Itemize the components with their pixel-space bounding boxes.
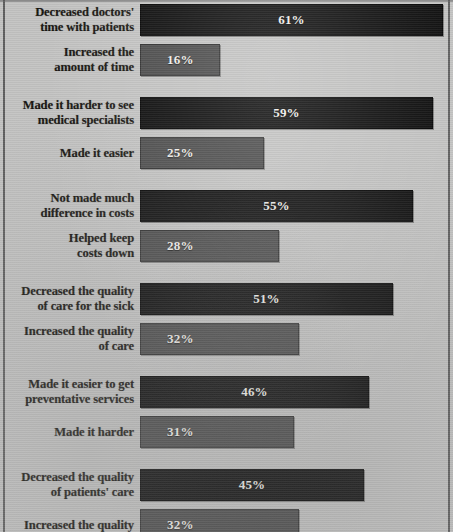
group-separator [0, 84, 453, 97]
chart-frame-right-border [448, 0, 450, 532]
bar-row: Increased the amount of time16% [0, 44, 453, 76]
bar-primary: 61% [140, 4, 443, 36]
bar-group: Decreased doctors' time with patients61%… [0, 4, 453, 76]
bar-primary: 59% [140, 97, 433, 129]
bar-category-label: Made it harder to see medical specialist… [0, 98, 134, 128]
bar-group: Decreased the quality of patients' care4… [0, 469, 453, 532]
bar-primary: 46% [140, 376, 369, 408]
paired-bar-chart: Decreased doctors' time with patients61%… [0, 0, 453, 532]
bar-row: Made it easier to get preventative servi… [0, 376, 453, 408]
bar-value-label: 31% [167, 424, 194, 440]
bar-group-list: Decreased doctors' time with patients61%… [0, 0, 453, 532]
bar-category-label: Made it easier [0, 146, 134, 161]
bar-row: Helped keep costs down28% [0, 230, 453, 262]
bar-row: Made it harder31% [0, 416, 453, 448]
bar-category-label: Not made much difference in costs [0, 191, 134, 221]
bar-row: Decreased doctors' time with patients61% [0, 4, 453, 36]
bar-category-label: Increased the quality [0, 518, 134, 532]
bar-row: Made it harder to see medical specialist… [0, 97, 453, 129]
bar-category-label: Increased the quality of care [0, 324, 134, 354]
group-separator [0, 270, 453, 283]
bar-value-label: 25% [167, 145, 194, 161]
bar-category-label: Decreased the quality of care for the si… [0, 284, 134, 314]
bar-row: Decreased the quality of patients' care4… [0, 469, 453, 501]
bar-value-label: 32% [167, 331, 194, 347]
bar-secondary: 16% [140, 44, 220, 76]
bar-category-label: Made it easier to get preventative servi… [0, 377, 134, 407]
bar-secondary: 32% [140, 509, 299, 532]
bar-group: Made it harder to see medical specialist… [0, 97, 453, 169]
chart-frame-top-border [0, 0, 453, 2]
group-separator [0, 363, 453, 376]
group-separator [0, 456, 453, 469]
bar-value-label: 61% [141, 12, 442, 28]
bar-value-label: 59% [141, 105, 432, 121]
bar-group: Not made much difference in costs55%Help… [0, 190, 453, 262]
bar-category-label: Increased the amount of time [0, 45, 134, 75]
bar-row: Not made much difference in costs55% [0, 190, 453, 222]
bar-primary: 45% [140, 469, 364, 501]
bar-row: Made it easier25% [0, 137, 453, 169]
bar-secondary: 32% [140, 323, 299, 355]
bar-category-label: Helped keep costs down [0, 231, 134, 261]
bar-primary: 55% [140, 190, 413, 222]
bar-category-label: Made it harder [0, 425, 134, 440]
bar-category-label: Decreased the quality of patients' care [0, 470, 134, 500]
bar-secondary: 25% [140, 137, 264, 169]
group-separator [0, 177, 453, 190]
bar-primary: 51% [140, 283, 393, 315]
bar-secondary: 31% [140, 416, 294, 448]
bar-row: Increased the quality32% [0, 509, 453, 532]
bar-group: Made it easier to get preventative servi… [0, 376, 453, 448]
bar-value-label: 28% [167, 238, 194, 254]
bar-value-label: 55% [141, 198, 412, 214]
bar-category-label: Decreased doctors' time with patients [0, 5, 134, 35]
chart-frame-left-border [3, 0, 5, 532]
bar-value-label: 51% [141, 291, 392, 307]
bar-value-label: 32% [167, 517, 194, 532]
bar-secondary: 28% [140, 230, 279, 262]
bar-row: Increased the quality of care32% [0, 323, 453, 355]
bar-group: Decreased the quality of care for the si… [0, 283, 453, 355]
bar-value-label: 45% [141, 477, 363, 493]
bar-value-label: 16% [167, 52, 194, 68]
bar-row: Decreased the quality of care for the si… [0, 283, 453, 315]
bar-value-label: 46% [141, 384, 368, 400]
